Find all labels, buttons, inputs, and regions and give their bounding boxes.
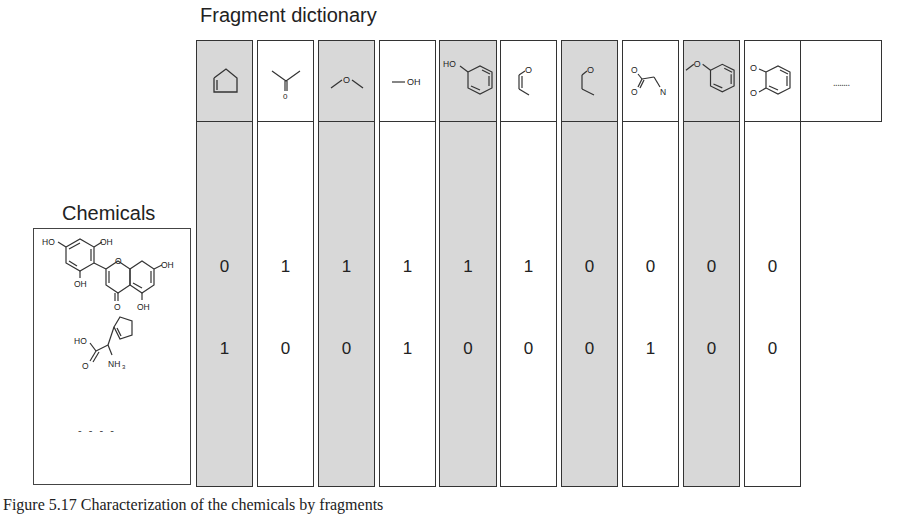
- svg-text:0: 0: [283, 92, 288, 101]
- svg-text:OH: OH: [100, 237, 113, 247]
- fragment-column-8: O O N 0 1: [622, 40, 679, 487]
- svg-text:O: O: [115, 256, 122, 266]
- svg-text:O: O: [631, 87, 638, 97]
- svg-text:HO: HO: [443, 59, 456, 69]
- value-row2-col10: 0: [745, 339, 800, 359]
- svg-text:O: O: [694, 59, 701, 69]
- value-row1-col7: 0: [562, 257, 617, 277]
- amino-acid-icon: O O N: [626, 61, 676, 101]
- fragment-dictionary-title: Fragment dictionary: [200, 4, 377, 27]
- more-chemicals-ellipsis: - - - -: [78, 424, 116, 436]
- phenol-icon: HO: [440, 56, 496, 106]
- fragment-header-3: O: [319, 41, 374, 122]
- svg-text:OH: OH: [161, 260, 174, 270]
- svg-text:O: O: [587, 65, 594, 75]
- figure-caption: Figure 5.17 Characterization of the chem…: [3, 496, 383, 514]
- vinyl-oxygen-icon: O: [509, 61, 549, 101]
- value-row2-col3: 0: [319, 339, 374, 359]
- fragment-column-6: O 1 0: [500, 40, 557, 487]
- fragment-column-5: HO 1 0: [439, 40, 497, 487]
- hydroxyl-icon: OH: [388, 71, 428, 91]
- fragment-header-more: ........: [801, 41, 881, 122]
- fragment-column-10: O O 0 0: [744, 40, 801, 487]
- svg-text:HO: HO: [74, 336, 87, 346]
- chemicals-title: Chemicals: [62, 202, 155, 225]
- svg-text:O: O: [631, 65, 638, 75]
- fragment-header-8: O O N: [623, 41, 678, 122]
- fragment-column-3: O 1 0: [318, 40, 375, 487]
- svg-text:O: O: [525, 65, 532, 75]
- fragment-header-2: 0: [258, 41, 313, 122]
- svg-text:OH: OH: [74, 279, 87, 289]
- value-row2-col4: 1: [380, 339, 435, 359]
- svg-text:O: O: [343, 75, 350, 85]
- value-row2-col2: 0: [258, 339, 313, 359]
- value-row2-col7: 0: [562, 339, 617, 359]
- svg-text:O: O: [82, 361, 89, 371]
- fragment-header-1: [197, 41, 252, 122]
- svg-text:NH: NH: [108, 359, 120, 369]
- value-row1-col8: 0: [623, 257, 678, 277]
- fragment-column-9: O 0 0: [683, 40, 740, 487]
- chemicals-box: HO OH OH O OH O OH HO O NH 3 - - - -: [33, 228, 191, 485]
- fragment-column-4: OH 1 1: [379, 40, 436, 487]
- fragment-header-9: O: [684, 41, 739, 122]
- svg-text:N: N: [660, 87, 666, 97]
- value-row2-col1: 1: [197, 339, 252, 359]
- cyclopentene-icon: [208, 64, 242, 98]
- value-row1-col9: 0: [684, 257, 739, 277]
- svg-text:OH: OH: [407, 77, 421, 87]
- value-row1-col10: 0: [745, 257, 800, 277]
- value-row1-col4: 1: [380, 257, 435, 277]
- ether-icon: O: [327, 66, 367, 96]
- value-row1-col3: 1: [319, 257, 374, 277]
- flavonoid-structure-icon: HO OH OH O OH O OH: [36, 233, 186, 313]
- value-row1-col5: 1: [440, 257, 496, 277]
- fragment-header-5: HO: [440, 41, 496, 122]
- fragment-header-10: O O: [745, 41, 800, 122]
- svg-text:O: O: [750, 88, 757, 98]
- cyclopentenyl-glycine-structure-icon: HO O NH 3: [68, 309, 158, 389]
- fragment-column-1: 0 1: [196, 40, 253, 487]
- fragment-header-6: O: [501, 41, 556, 122]
- propyl-oxygen-icon: O: [570, 61, 610, 101]
- fragment-header-4: OH: [380, 41, 435, 122]
- value-row2-col6: 0: [501, 339, 556, 359]
- catechol-icon: O O: [746, 58, 800, 104]
- value-row1-col1: 0: [197, 257, 252, 277]
- ketone-icon: 0: [266, 61, 306, 101]
- fragment-column-more: ........: [800, 40, 882, 122]
- value-row2-col5: 0: [440, 339, 496, 359]
- value-row1-col6: 1: [501, 257, 556, 277]
- methoxy-benzene-icon: O: [684, 56, 739, 106]
- svg-text:3: 3: [122, 364, 126, 370]
- ellipsis-icon: ........: [833, 76, 849, 88]
- fragment-column-7: O 0 0: [561, 40, 618, 487]
- value-row1-col2: 1: [258, 257, 313, 277]
- svg-text:O: O: [750, 63, 757, 73]
- value-row2-col8: 1: [623, 339, 678, 359]
- value-row2-col9: 0: [684, 339, 739, 359]
- fragment-column-2: 0 1 0: [257, 40, 314, 487]
- fragment-header-7: O: [562, 41, 617, 122]
- svg-text:HO: HO: [42, 237, 55, 247]
